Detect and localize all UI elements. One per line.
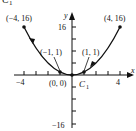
svg-text:C: C [79, 79, 86, 89]
label-0-0: (0, 0) [49, 79, 67, 88]
label-1-1: (1, 1) [82, 48, 100, 57]
point-0-0 [70, 73, 74, 77]
y-tick-neg16: −16 [52, 121, 65, 130]
x-tick-4: 4 [116, 78, 120, 87]
svg-text:1: 1 [86, 84, 89, 90]
label-4-16: (4, 16) [104, 14, 126, 23]
curve-label-c1: C 1 [79, 79, 89, 90]
curve-arrow-left-icon [29, 38, 35, 44]
x-axis-label: x [130, 66, 135, 75]
label-neg1-1: (−1, 1) [40, 48, 62, 57]
x-tick-neg4: −4 [16, 78, 25, 87]
svg-text:1: 1 [9, 0, 13, 7]
svg-text:C: C [2, 0, 9, 5]
y-axis-label: y [63, 11, 68, 20]
y-axis-arrow-icon [69, 12, 75, 20]
point-neg4-16 [22, 25, 26, 29]
parabola-diagram: C 1 x y 16 −1 [0, 0, 136, 131]
top-curve-label: C 1 [2, 0, 13, 7]
label-neg4-16: (−4, 16) [6, 14, 32, 23]
point-4-16 [118, 25, 122, 29]
y-tick-16: 16 [58, 23, 66, 32]
y-axis [72, 16, 76, 128]
